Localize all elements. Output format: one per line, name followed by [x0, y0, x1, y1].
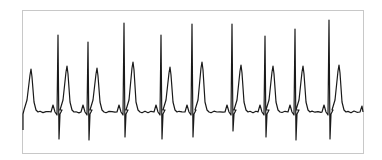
ecg-plot — [0, 0, 382, 160]
ecg-chart — [0, 0, 382, 160]
ecg-trace — [23, 20, 363, 140]
